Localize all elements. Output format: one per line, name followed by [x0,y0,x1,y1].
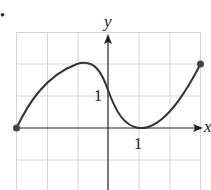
y-axis-label: y [104,13,112,30]
y-tick-label-1: 1 [94,88,102,104]
x-axis-label: x [204,118,211,135]
x-tick-label-1: 1 [134,136,142,152]
endpoint-left [13,125,20,132]
bullet-marker: • [0,9,5,23]
endpoint-right [197,61,204,68]
